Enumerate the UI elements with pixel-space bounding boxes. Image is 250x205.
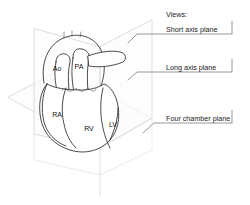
label-pulmonary-artery: PA xyxy=(75,63,84,70)
label-right-atrium: RA xyxy=(52,111,62,118)
label-left-ventricle: LV xyxy=(109,121,117,128)
callout-label-short-axis: Short axis plane xyxy=(166,25,218,34)
leader-line-four-chamber xyxy=(143,123,232,133)
heart-imaging-planes-diagram: Ao PA RA RV LV Views: Short axis plane L… xyxy=(0,0,250,205)
pulmonary-artery-vessel xyxy=(72,49,89,92)
views-header: Views: xyxy=(166,10,187,19)
label-right-ventricle: RV xyxy=(84,125,94,132)
callout-four-chamber[interactable]: Four chamber plane xyxy=(143,110,232,133)
subclavian-stub xyxy=(80,32,81,37)
label-aorta: Ao xyxy=(53,65,62,72)
callout-label-four-chamber: Four chamber plane xyxy=(166,114,230,123)
callout-label-long-axis: Long axis plane xyxy=(166,63,216,72)
